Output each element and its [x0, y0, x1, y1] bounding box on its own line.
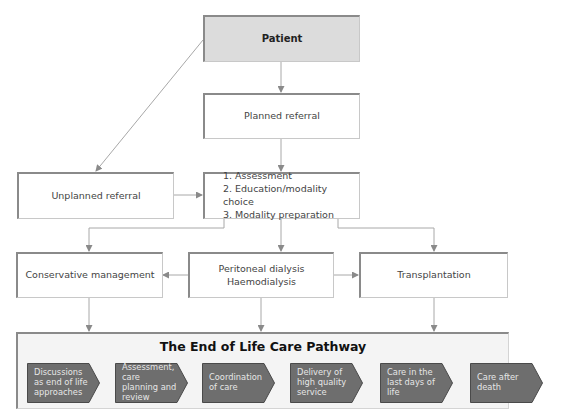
pathway-step-label: Discussions as end of life approaches [34, 363, 90, 403]
patient-label: Patient [262, 32, 303, 46]
unplanned-referral-label: Unplanned referral [51, 190, 140, 203]
pathway-step-label: Assessment, care planning and review [122, 363, 178, 403]
pathway-step: Assessment, care planning and review [115, 363, 188, 403]
pathway-step: Care in the last days of life [380, 363, 453, 403]
pathway-step-label: Care after death [477, 363, 533, 403]
patient-box: Patient [203, 15, 360, 62]
transplantation-box: Transplantation [359, 252, 508, 298]
planned-referral-label: Planned referral [244, 110, 320, 123]
assessment-step: 1. Assessment [223, 170, 359, 183]
pathway-step: Delivery of high quality service [290, 363, 363, 403]
conservative-management-box: Conservative management [16, 252, 163, 298]
haemodialysis-label: Haemodialysis [219, 276, 305, 289]
assessment-step: 3. Modality preparation [223, 209, 359, 222]
planned-referral-box: Planned referral [203, 93, 360, 139]
transplantation-label: Transplantation [397, 269, 470, 282]
pathway-step: Care after death [470, 363, 543, 403]
pathway-title: The End of Life Care Pathway [18, 339, 508, 354]
unplanned-referral-box: Unplanned referral [17, 172, 174, 219]
end-of-life-pathway-panel: The End of Life Care Pathway Discussions… [16, 332, 509, 409]
pathway-step-label: Care in the last days of life [387, 363, 443, 403]
assessment-box: 1. Assessment 2. Education/modality choi… [203, 172, 360, 219]
dialysis-box: Peritoneal dialysis Haemodialysis [188, 252, 334, 298]
peritoneal-dialysis-label: Peritoneal dialysis [219, 263, 305, 276]
pathway-step: Discussions as end of life approaches [27, 363, 100, 403]
conservative-management-label: Conservative management [25, 269, 154, 282]
pathway-step-label: Delivery of high quality service [297, 363, 353, 403]
pathway-step-label: Coordination of care [209, 363, 265, 403]
pathway-step: Coordination of care [202, 363, 275, 403]
assessment-step: 2. Education/modality choice [223, 183, 359, 209]
